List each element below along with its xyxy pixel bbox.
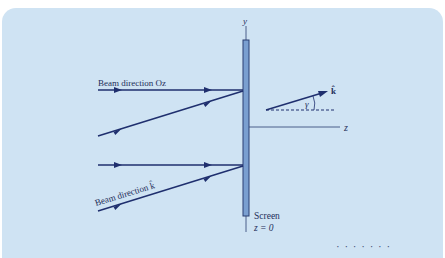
screen	[243, 40, 249, 216]
beam-oblique-lower	[98, 166, 243, 211]
beam-oz-label: Beam direction Oz	[98, 78, 166, 88]
screen-plane-label: z = 0	[253, 223, 274, 233]
angle-arc	[313, 96, 315, 110]
arrowhead-icon	[204, 87, 212, 93]
arrowhead-icon	[114, 162, 122, 168]
y-axis-label: y	[242, 16, 247, 26]
screen-label: Screen	[254, 211, 280, 221]
arrowhead-icon	[318, 91, 328, 97]
gamma-label: γ	[305, 99, 309, 109]
beam-horizontal-lower	[98, 162, 243, 168]
arrowhead-icon	[204, 162, 212, 168]
k-direction-inset	[266, 91, 335, 110]
k-hat-label: k̂	[331, 85, 336, 96]
beam-k-label: Beam direction k̂	[93, 179, 156, 208]
beam-oblique-upper	[98, 91, 243, 136]
z-axis-label: z	[343, 122, 348, 133]
caption-fragment: · · · · · · ·	[336, 240, 391, 252]
